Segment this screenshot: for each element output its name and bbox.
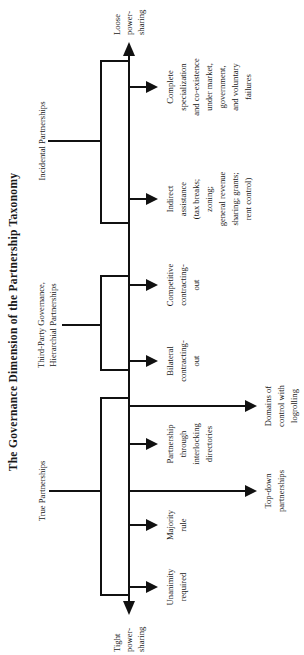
arrow-right-icon: [146, 438, 158, 450]
bracket-true: [49, 398, 129, 595]
svg-text:power-: power-: [124, 628, 134, 652]
tight-power-sharing-label: Tight power- sharing: [112, 626, 146, 652]
svg-text:rule: rule: [178, 518, 188, 532]
leaf-domains-of-control: Domains of control with logrolling: [263, 384, 299, 426]
svg-text:logrolling: logrolling: [289, 388, 299, 423]
leaf-complete-specialization: Complete specialization and co-existence…: [165, 58, 253, 116]
svg-text:out: out: [191, 355, 201, 367]
svg-text:and voluntary: and voluntary: [230, 63, 240, 111]
svg-text:required: required: [178, 572, 188, 601]
svg-text:and co-existence: and co-existence: [191, 58, 201, 116]
svg-text:sharing; grants;: sharing; grants;: [230, 172, 240, 225]
svg-text:Complete: Complete: [165, 70, 175, 104]
svg-text:Hierarchial Partnerships: Hierarchial Partnerships: [48, 283, 58, 367]
svg-text:general revenue: general revenue: [217, 172, 227, 227]
svg-text:sharing: sharing: [136, 9, 146, 35]
svg-text:out: out: [191, 279, 201, 291]
svg-text:Top-down: Top-down: [263, 473, 273, 509]
arrow-right-icon: [146, 519, 158, 531]
group-label-third-party: Third-Party Governance, Hierarchial Part…: [36, 282, 58, 368]
svg-text:(tax breaks;: (tax breaks;: [191, 179, 201, 219]
svg-text:zoning;: zoning;: [204, 186, 214, 212]
svg-text:rent control): rent control): [243, 178, 253, 221]
leaf-unanimity-required: Unanimity required: [165, 568, 188, 605]
leaf-majority-rule: Majority rule: [165, 509, 188, 540]
svg-text:contracting-: contracting-: [178, 340, 188, 382]
svg-text:Partnership: Partnership: [165, 424, 175, 463]
leaf-competitive-contracting-out: Competitive contracting- out: [165, 264, 201, 307]
svg-text:Loose: Loose: [112, 14, 122, 35]
svg-text:Majority: Majority: [165, 509, 175, 540]
governance-taxonomy-diagram: The Governance Dimension of the Partners…: [0, 0, 304, 655]
arrow-right-icon: [146, 581, 158, 593]
leaf-top-down-partnerships: Top-down partnerships: [263, 469, 286, 512]
group-label-true: True Partnerships: [37, 460, 47, 521]
svg-text:Tight: Tight: [112, 633, 122, 652]
svg-text:under market,: under market,: [204, 63, 214, 111]
arrow-right-icon: [245, 485, 257, 497]
svg-text:sharing: sharing: [136, 626, 146, 652]
svg-text:control with: control with: [276, 384, 286, 426]
arrow-right-icon: [146, 355, 158, 367]
leaf-arrows: [129, 81, 257, 593]
leaf-indirect-assistance: Indirect assistance (tax breaks; zoning;…: [165, 172, 253, 227]
bracket-incidental: [48, 61, 129, 223]
svg-text:failures: failures: [243, 73, 253, 99]
loose-power-sharing-label: Loose power- sharing: [112, 9, 146, 35]
svg-text:specialization: specialization: [178, 63, 188, 111]
svg-text:directories: directories: [204, 425, 214, 462]
arrow-right-icon: [146, 193, 158, 205]
svg-text:power-: power-: [124, 11, 134, 35]
svg-text:contracting-: contracting-: [178, 264, 188, 306]
svg-text:Competitive: Competitive: [165, 264, 175, 307]
group-label-incidental: Incidental Partnerships: [37, 101, 47, 181]
svg-text:Unanimity: Unanimity: [165, 568, 175, 605]
leaf-bilateral-contracting-out: Bilateral contracting- out: [165, 340, 201, 382]
figure-title: The Governance Dimension of the Partners…: [7, 173, 20, 472]
leaf-interlocking-directories: Partnership through interlocking directo…: [165, 423, 214, 465]
svg-text:Domains of: Domains of: [263, 386, 273, 426]
arrow-right-icon: [245, 400, 257, 412]
svg-text:partnerships: partnerships: [276, 469, 286, 512]
svg-text:interlocking: interlocking: [191, 423, 201, 465]
arrow-right-icon: [146, 81, 158, 93]
svg-text:assistance: assistance: [178, 182, 188, 217]
arrow-up-icon: [123, 42, 135, 56]
svg-text:government,: government,: [217, 65, 227, 108]
svg-text:Indirect: Indirect: [165, 185, 175, 212]
arrow-down-icon: [123, 601, 135, 615]
arrow-right-icon: [146, 279, 158, 291]
bracket-third-party: [62, 276, 129, 370]
power-sharing-axis: [123, 42, 135, 615]
svg-text:through: through: [178, 430, 188, 457]
svg-text:Third-Party Governance,: Third-Party Governance,: [36, 282, 46, 368]
svg-text:Bilateral: Bilateral: [165, 346, 175, 376]
